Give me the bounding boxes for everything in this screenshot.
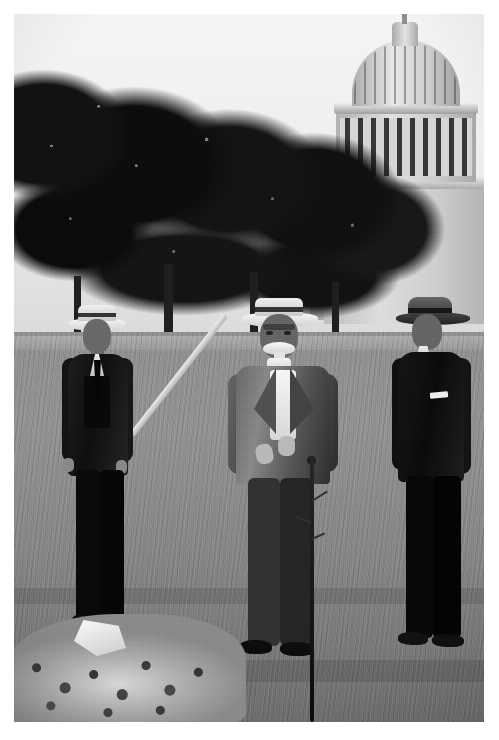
leg-right: [100, 470, 124, 620]
hand-left: [63, 458, 74, 472]
photo-caption: [0, 729, 499, 740]
tree-trunk: [164, 264, 173, 342]
head: [412, 314, 442, 350]
man-right: [382, 296, 484, 658]
eye-right: [284, 331, 291, 335]
hat-band: [408, 308, 452, 313]
dirt-clods: [14, 614, 246, 722]
hand-right-on-shovel: [278, 436, 295, 456]
man-left: [46, 302, 154, 662]
suit-jacket: [398, 352, 464, 482]
historical-photograph: [14, 14, 484, 722]
hat-band: [255, 307, 303, 312]
book-page: [0, 0, 499, 740]
brow-shadow: [263, 324, 295, 330]
man-center: [222, 294, 346, 666]
hat-crown: [408, 297, 452, 316]
hat-band: [78, 313, 116, 317]
leg-left: [76, 470, 100, 620]
leg-right: [433, 476, 461, 638]
shoe-right: [432, 634, 464, 647]
eye-left: [266, 331, 273, 335]
leg-left: [406, 476, 433, 638]
leg-right: [280, 478, 314, 646]
leg-left: [248, 478, 280, 646]
shoe-left: [398, 632, 428, 645]
